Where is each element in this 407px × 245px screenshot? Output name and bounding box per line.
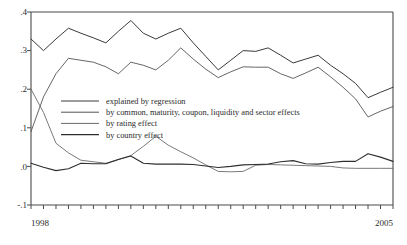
line-chart: .4 .3 .2 .1 .0 -.1 1998 2005 explained b… bbox=[0, 0, 407, 245]
legend-label-0: explained by regression bbox=[106, 97, 186, 106]
chart-background bbox=[0, 0, 407, 245]
x-tick-label-start: 1998 bbox=[31, 218, 50, 228]
x-tick-label-end: 2005 bbox=[375, 218, 394, 228]
legend-label-1: by common, maturity, coupon, liquidity a… bbox=[106, 108, 300, 117]
legend-label-3: by country effect bbox=[106, 131, 164, 140]
y-tick-label: .4 bbox=[20, 7, 27, 17]
y-tick-label: .2 bbox=[20, 84, 27, 94]
y-tick-label: .3 bbox=[20, 45, 27, 55]
y-tick-label: -.1 bbox=[17, 200, 27, 210]
y-tick-label: .0 bbox=[20, 162, 27, 172]
chart-container: .4 .3 .2 .1 .0 -.1 1998 2005 explained b… bbox=[0, 0, 407, 245]
y-tick-label: .1 bbox=[20, 123, 27, 133]
legend-label-2: by rating effect bbox=[106, 119, 158, 128]
